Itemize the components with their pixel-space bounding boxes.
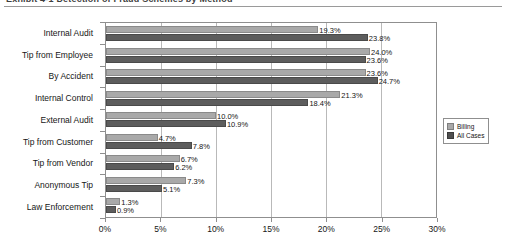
bar-all-cases[interactable]: 10.9% (106, 120, 226, 127)
exhibit-caption: Exhibit 4-1 Detection of Fraud Schemes b… (0, 0, 506, 5)
bar-row: 7.3%5.1% (106, 174, 436, 196)
legend-item[interactable]: All Cases (447, 131, 484, 140)
legend-swatch (447, 123, 454, 130)
bar-value-label: 21.3% (341, 92, 362, 99)
bar-all-cases[interactable]: 23.6% (106, 56, 366, 63)
bar-value-label: 19.3% (319, 27, 340, 34)
legend-label: All Cases (457, 131, 484, 140)
bar-value-label: 7.3% (187, 178, 204, 185)
bar-billing[interactable]: 19.3% (106, 26, 318, 33)
category-tick (100, 66, 105, 67)
legend-item[interactable]: Billing (447, 122, 484, 131)
value-tick (216, 218, 217, 222)
bar-value-label: 24.7% (379, 78, 400, 85)
value-tick-label: 30% (428, 224, 445, 234)
category-label: Tip from Employee (0, 44, 100, 66)
category-tick (100, 218, 105, 219)
category-tick (100, 174, 105, 175)
bar-row: 24.0%23.6% (106, 45, 436, 67)
bar-all-cases[interactable]: 23.8% (106, 34, 368, 41)
bar-row: 6.7%6.2% (106, 152, 436, 174)
bar-all-cases[interactable]: 24.7% (106, 77, 378, 84)
bar-row: 23.6%24.7% (106, 66, 436, 88)
bar-all-cases[interactable]: 18.4% (106, 99, 308, 106)
category-tick (100, 44, 105, 45)
bar-value-label: 4.7% (159, 135, 176, 142)
bar-row: 4.7%7.8% (106, 131, 436, 153)
bar-billing[interactable]: 7.3% (106, 177, 186, 184)
bar-rows: 19.3%23.8%24.0%23.6%23.6%24.7%21.3%18.4%… (106, 23, 436, 217)
value-tick (160, 218, 161, 222)
category-label: Law Enforcement (0, 196, 100, 218)
bar-billing[interactable]: 6.7% (106, 155, 180, 162)
value-tick (437, 218, 438, 222)
bar-value-label: 0.9% (117, 207, 134, 214)
category-tick (100, 153, 105, 154)
bar-billing[interactable]: 1.3% (106, 198, 120, 205)
bar-all-cases[interactable]: 6.2% (106, 163, 174, 170)
bar-value-label: 5.1% (163, 186, 180, 193)
bar-billing[interactable]: 21.3% (106, 91, 340, 98)
value-tick-label: 15% (262, 224, 279, 234)
value-tick-label: 25% (373, 224, 390, 234)
bar-value-label: 24.0% (371, 49, 392, 56)
bar-all-cases[interactable]: 5.1% (106, 185, 162, 192)
caption-divider (4, 6, 502, 7)
bar-value-label: 23.8% (369, 35, 390, 42)
category-tick (100, 109, 105, 110)
bar-value-label: 23.6% (367, 57, 388, 64)
value-tick (271, 218, 272, 222)
value-tick (382, 218, 383, 222)
bar-billing[interactable]: 4.7% (106, 134, 158, 141)
bar-row: 1.3%0.9% (106, 195, 436, 217)
category-tick (100, 87, 105, 88)
bar-value-label: 10.0% (217, 113, 238, 120)
chart-legend: BillingAll Cases (443, 118, 489, 144)
bar-all-cases[interactable]: 7.8% (106, 142, 192, 149)
category-label: External Audit (0, 109, 100, 131)
bar-value-label: 6.2% (175, 164, 192, 171)
value-tick (105, 218, 106, 222)
plot-area: 19.3%23.8%24.0%23.6%23.6%24.7%21.3%18.4%… (105, 22, 437, 218)
bar-value-label: 1.3% (121, 199, 138, 206)
category-label: Tip from Customer (0, 131, 100, 153)
bar-value-label: 6.7% (181, 156, 198, 163)
bar-value-label: 18.4% (309, 100, 330, 107)
bar-all-cases[interactable]: 0.9% (106, 206, 116, 213)
value-tick (326, 218, 327, 222)
category-tick (100, 131, 105, 132)
bar-chart: Internal AuditTip from EmployeeBy Accide… (0, 10, 506, 248)
bar-value-label: 23.6% (367, 70, 388, 77)
bar-row: 10.0%10.9% (106, 109, 436, 131)
category-label: Internal Audit (0, 22, 100, 44)
bar-value-label: 10.9% (227, 121, 248, 128)
bar-value-label: 7.8% (193, 143, 210, 150)
category-label: Tip from Vendor (0, 153, 100, 175)
bar-billing[interactable]: 10.0% (106, 112, 216, 119)
bar-billing[interactable]: 24.0% (106, 48, 370, 55)
category-axis-labels: Internal AuditTip from EmployeeBy Accide… (0, 22, 100, 218)
legend-label: Billing (457, 122, 474, 131)
category-label: Anonymous Tip (0, 174, 100, 196)
category-label: By Accident (0, 66, 100, 88)
value-tick-label: 10% (207, 224, 224, 234)
value-tick-label: 20% (318, 224, 335, 234)
bar-row: 21.3%18.4% (106, 88, 436, 110)
bar-row: 19.3%23.8% (106, 23, 436, 45)
category-tick (100, 22, 105, 23)
category-label: Internal Control (0, 87, 100, 109)
value-axis: 0%5%10%15%20%25%30% (105, 218, 437, 238)
bar-billing[interactable]: 23.6% (106, 69, 366, 76)
category-tick (100, 196, 105, 197)
value-tick-label: 0% (99, 224, 111, 234)
exhibit-caption-text: Exhibit 4-1 Detection of Fraud Schemes b… (6, 0, 233, 4)
legend-swatch (447, 132, 454, 139)
value-tick-label: 5% (154, 224, 166, 234)
